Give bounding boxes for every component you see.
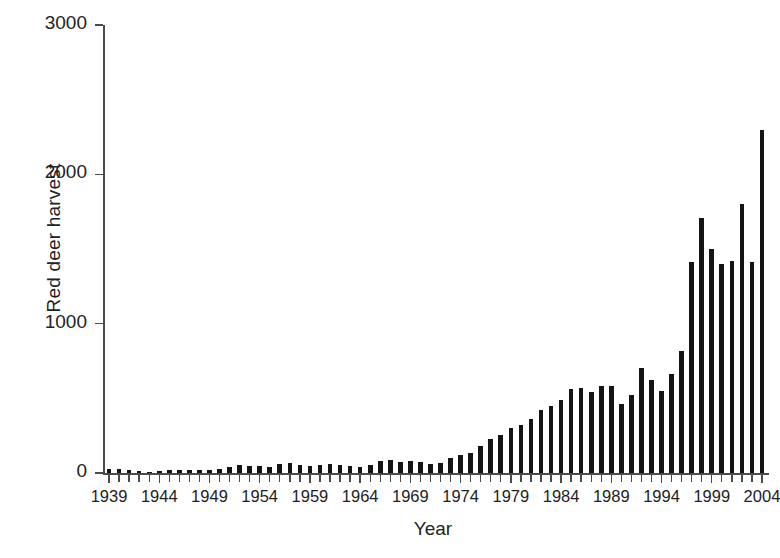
x-axis-tick-label: 1964 — [342, 487, 379, 506]
bar — [659, 391, 664, 473]
x-axis-tick-label: 1939 — [91, 487, 128, 506]
x-axis-tick-label: 1989 — [593, 487, 630, 506]
bar — [539, 410, 544, 473]
x-axis-tick-label: 1969 — [392, 487, 429, 506]
y-axis-tick-label: 3000 — [0, 12, 87, 34]
x-axis-tick-label: 1954 — [241, 487, 278, 506]
x-axis-tick-label: 1959 — [292, 487, 329, 506]
bar — [760, 130, 765, 473]
x-axis-tick-minor — [149, 474, 150, 482]
bar — [398, 462, 403, 473]
x-axis-tick-major — [259, 474, 260, 483]
x-axis-tick-minor — [681, 474, 682, 482]
x-axis-tick-label: 1999 — [693, 487, 730, 506]
x-axis-tick-minor — [580, 474, 581, 482]
x-axis-tick-label: 1979 — [492, 487, 529, 506]
bar — [509, 428, 514, 473]
x-axis-tick-minor — [731, 474, 732, 482]
bar — [378, 461, 383, 473]
x-axis-tick-minor — [370, 474, 371, 482]
x-axis-tick-minor — [299, 474, 300, 482]
bar — [740, 204, 745, 473]
x-axis-tick-minor — [751, 474, 752, 482]
bar — [318, 465, 323, 473]
bar — [629, 395, 634, 473]
x-axis-tick-minor — [450, 474, 451, 482]
x-axis-tick-minor — [199, 474, 200, 482]
x-axis-tick-label: 1949 — [191, 487, 228, 506]
y-axis-tick-label: 2000 — [0, 161, 87, 183]
x-axis-tick-minor — [339, 474, 340, 482]
bar — [298, 465, 303, 473]
x-axis-tick-minor — [169, 474, 170, 482]
bar — [488, 439, 493, 473]
x-axis-tick-minor — [430, 474, 431, 482]
y-axis-title: Red deer harvest — [36, 3, 72, 473]
bar — [679, 351, 684, 473]
bar — [308, 466, 313, 473]
x-axis-tick-minor — [380, 474, 381, 482]
bar — [569, 389, 574, 473]
x-axis-tick-minor — [289, 474, 290, 482]
x-axis-tick-major — [560, 474, 561, 483]
x-axis-tick-minor — [701, 474, 702, 482]
x-axis-tick-minor — [269, 474, 270, 482]
x-axis-tick-minor — [570, 474, 571, 482]
x-axis-tick-minor — [118, 474, 119, 482]
x-axis-tick-major — [510, 474, 511, 483]
bar — [418, 462, 423, 473]
x-axis-tick-minor — [641, 474, 642, 482]
y-axis-tick-label: 0 — [0, 460, 87, 482]
x-axis-tick-major — [108, 474, 109, 483]
x-axis-tick-minor — [540, 474, 541, 482]
x-axis-tick-minor — [691, 474, 692, 482]
y-axis-tick — [95, 174, 103, 176]
y-axis-tick-label: 1000 — [0, 311, 87, 333]
bar — [609, 386, 614, 473]
x-axis-tick-major — [460, 474, 461, 483]
bar — [709, 249, 714, 473]
x-axis-tick-major — [761, 474, 762, 483]
bar — [519, 425, 524, 473]
bar — [428, 464, 433, 473]
bar-series — [103, 25, 768, 473]
x-axis-tick-minor — [128, 474, 129, 482]
x-axis-tick-label: 1944 — [141, 487, 178, 506]
x-axis-tick-minor — [420, 474, 421, 482]
bar — [730, 261, 735, 473]
x-axis-tick-minor — [490, 474, 491, 482]
x-axis-tick-minor — [349, 474, 350, 482]
bar — [338, 465, 343, 473]
bar — [288, 463, 293, 473]
x-axis-tick-minor — [189, 474, 190, 482]
x-axis-tick-label: 1994 — [643, 487, 680, 506]
bar — [699, 218, 704, 473]
x-axis-ticks: 1939194419491954195919641969197419791984… — [103, 473, 769, 513]
x-axis-tick-minor — [470, 474, 471, 482]
x-axis-tick-minor — [591, 474, 592, 482]
y-axis-tick — [95, 24, 103, 26]
y-axis-tick — [95, 472, 103, 474]
bar — [328, 464, 333, 473]
x-axis-tick-minor — [400, 474, 401, 482]
bar — [579, 388, 584, 473]
x-axis-tick-major — [711, 474, 712, 483]
bar — [247, 466, 252, 473]
bar — [719, 264, 724, 473]
x-axis-tick-minor — [179, 474, 180, 482]
x-axis-tick-minor — [249, 474, 250, 482]
x-axis-tick-major — [611, 474, 612, 483]
bar — [257, 466, 262, 473]
x-axis-tick-minor — [219, 474, 220, 482]
x-axis-tick-label: 2004 — [744, 487, 780, 506]
bar — [639, 368, 644, 473]
x-axis-tick-minor — [741, 474, 742, 482]
bar — [277, 464, 282, 473]
bar — [458, 455, 463, 473]
bar — [750, 262, 755, 473]
y-axis-tick — [95, 323, 103, 325]
bar — [529, 419, 534, 473]
x-axis-tick-major — [309, 474, 310, 483]
x-axis-tick-major — [359, 474, 360, 483]
